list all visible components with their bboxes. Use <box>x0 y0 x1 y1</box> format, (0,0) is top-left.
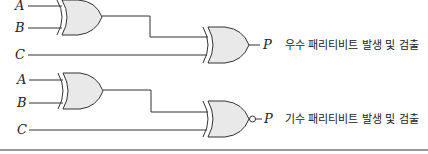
wire-xor1-to-xor2 <box>102 16 208 37</box>
odd-parity-description: 기수 패리티비트 발생 및 검출 <box>285 113 419 126</box>
inverter-bubble <box>250 116 256 122</box>
xor-gate-1 <box>57 0 102 35</box>
bottom-divider <box>0 149 428 151</box>
output-p-label: P <box>263 111 273 126</box>
even-parity-circuit: A B C P 우수 패리티비트 발생 및 검출 <box>14 0 419 63</box>
input-c-label: C <box>15 47 25 62</box>
input-c-label: C <box>17 122 27 137</box>
even-parity-description: 우수 패리티비트 발생 및 검출 <box>285 39 419 52</box>
odd-parity-circuit: A B C P 기수 패리티비트 발생 및 검출 <box>16 72 419 137</box>
input-b-label: B <box>16 95 27 110</box>
input-a-label: A <box>14 0 24 13</box>
input-a-label: A <box>16 72 26 87</box>
parity-circuit-diagram: A B C P 우수 패리티비트 발생 및 검출 A B C <box>0 0 428 154</box>
wire-xor3-to-xnor <box>103 90 208 112</box>
xor-gate-3 <box>58 73 103 109</box>
xor-gate-2 <box>203 27 249 63</box>
xnor-gate <box>203 101 256 137</box>
output-p-label: P <box>262 37 272 52</box>
input-b-label: B <box>14 20 25 35</box>
